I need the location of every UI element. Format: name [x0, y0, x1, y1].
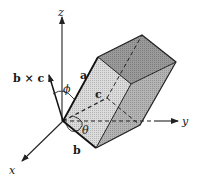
phi-label: ϕ	[63, 83, 71, 96]
x-axis-label: x	[9, 164, 16, 177]
vector-b-cross-c	[49, 75, 63, 121]
x-axis	[22, 121, 63, 161]
cross-product-label: b × c	[13, 72, 45, 85]
y-axis-label: y	[181, 115, 189, 128]
z-axis-label: z	[57, 6, 64, 19]
vector-a-label: a	[80, 69, 87, 82]
parallelepiped-diagram: z y x a b c b × c ϕ θ	[0, 0, 201, 184]
vector-c-label: c	[95, 88, 102, 101]
vector-b-label: b	[73, 144, 81, 157]
theta-label: θ	[82, 124, 89, 137]
